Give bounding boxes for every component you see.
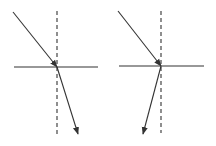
left-refracted-ray-arrow — [57, 67, 78, 134]
right-refracted-ray-arrow — [143, 66, 161, 134]
left-refraction-panel — [13, 11, 98, 135]
right-incident-ray-arrow — [118, 11, 161, 66]
right-refraction-panel — [118, 11, 204, 134]
diagram-svg — [0, 0, 216, 146]
left-incident-ray-arrow — [13, 12, 57, 67]
refraction-diagram — [0, 0, 216, 146]
